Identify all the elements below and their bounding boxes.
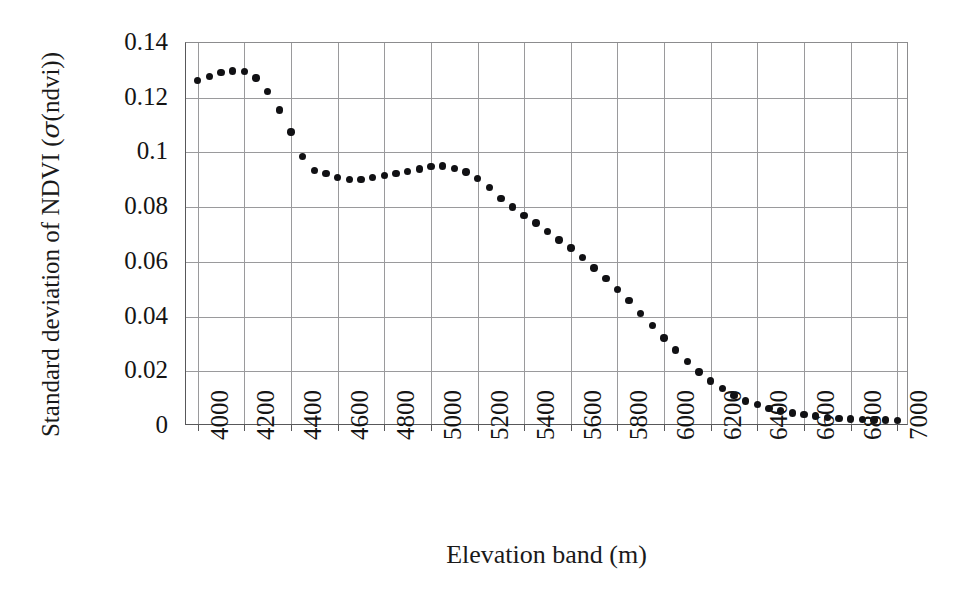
- gridline-horizontal: [186, 371, 907, 372]
- data-point: [894, 417, 901, 424]
- data-point: [532, 219, 539, 226]
- gridline-vertical: [757, 43, 758, 424]
- gridline-vertical: [384, 43, 385, 424]
- data-point: [486, 184, 493, 191]
- x-axis-tick-label: 5200: [486, 390, 514, 440]
- data-point: [252, 74, 259, 81]
- y-axis-tick-label: 0.1: [137, 137, 168, 165]
- x-axis-tick-mark: [291, 424, 292, 431]
- data-point: [800, 411, 807, 418]
- x-axis-tick-mark: [478, 424, 479, 431]
- data-point: [206, 73, 213, 80]
- data-point: [311, 167, 318, 174]
- gridline-horizontal: [186, 262, 907, 263]
- x-axis-tick-label: 5000: [439, 390, 467, 440]
- data-point: [287, 128, 294, 135]
- data-point: [334, 174, 341, 181]
- x-axis-tick-label: 4000: [206, 390, 234, 440]
- x-axis-tick-mark: [711, 424, 712, 431]
- data-point: [520, 212, 527, 219]
- data-point: [276, 106, 283, 113]
- data-point: [416, 165, 423, 172]
- data-point: [649, 322, 656, 329]
- data-point: [217, 69, 224, 76]
- data-point: [684, 358, 691, 365]
- x-axis-tick-label: 5800: [625, 390, 653, 440]
- data-point: [625, 297, 632, 304]
- x-axis-tick-label: 5600: [579, 390, 607, 440]
- data-point: [672, 346, 679, 353]
- data-point: [602, 275, 609, 282]
- gridline-vertical: [338, 43, 339, 424]
- gridline-horizontal: [186, 152, 907, 153]
- data-point: [346, 176, 353, 183]
- data-point: [707, 377, 714, 384]
- gridline-vertical: [711, 43, 712, 424]
- x-axis-tick-mark: [617, 424, 618, 431]
- data-point: [544, 228, 551, 235]
- data-point: [509, 203, 516, 210]
- data-point: [369, 174, 376, 181]
- x-axis-tick-mark: [571, 424, 572, 431]
- data-point: [241, 68, 248, 75]
- y-axis-tick-label: 0.14: [124, 28, 168, 56]
- gridline-vertical: [198, 43, 199, 424]
- data-point: [404, 168, 411, 175]
- y-axis-tick-label: 0.08: [124, 192, 168, 220]
- gridline-vertical: [478, 43, 479, 424]
- y-axis-tick-label: 0: [156, 411, 169, 439]
- x-axis-tick-label: 6800: [859, 390, 887, 440]
- data-point: [322, 170, 329, 177]
- x-axis-tick-label: 7000: [905, 390, 933, 440]
- data-point: [439, 162, 446, 169]
- gridline-vertical: [851, 43, 852, 424]
- data-point: [497, 195, 504, 202]
- data-point: [567, 244, 574, 251]
- data-point: [579, 254, 586, 261]
- gridline-vertical: [804, 43, 805, 424]
- plot-area: [185, 42, 908, 425]
- data-point: [451, 165, 458, 172]
- data-point: [614, 286, 621, 293]
- y-axis-tick-label: 0.06: [124, 247, 168, 275]
- x-axis-tick-label: 5400: [532, 390, 560, 440]
- gridline-vertical: [571, 43, 572, 424]
- x-axis-tick-mark: [244, 424, 245, 431]
- data-point: [847, 415, 854, 422]
- data-point: [264, 88, 271, 95]
- data-point: [194, 77, 201, 84]
- chart-figure: Standard deviation of NDVI (σ(ndvi)) 0.1…: [0, 0, 954, 608]
- x-axis-tick-label: 6600: [812, 390, 840, 440]
- data-point: [427, 163, 434, 170]
- gridline-horizontal: [186, 98, 907, 99]
- x-axis-tick-mark: [338, 424, 339, 431]
- x-axis-tick-label: 6200: [719, 390, 747, 440]
- data-point: [754, 401, 761, 408]
- y-axis-title-suffix: (ndvi)): [37, 52, 64, 121]
- x-axis-tick-mark: [804, 424, 805, 431]
- gridline-vertical: [244, 43, 245, 424]
- x-axis-tick-mark: [757, 424, 758, 431]
- data-point: [392, 170, 399, 177]
- gridline-vertical: [431, 43, 432, 424]
- gridline-vertical: [524, 43, 525, 424]
- y-axis-tick-label: 0.02: [124, 356, 168, 384]
- data-point: [474, 175, 481, 182]
- x-axis-tick-label: 4400: [299, 390, 327, 440]
- gridline-horizontal: [186, 207, 907, 208]
- data-point: [695, 368, 702, 375]
- sigma-symbol: σ: [36, 121, 65, 138]
- x-axis-tick-mark: [384, 424, 385, 431]
- gridline-vertical: [291, 43, 292, 424]
- x-axis-tick-labels: 4000420044004600480050005200540056005800…: [185, 432, 908, 512]
- data-point: [229, 67, 236, 74]
- y-axis-title-prefix: Standard deviation of NDVI (: [37, 138, 64, 437]
- x-axis-tick-mark: [431, 424, 432, 431]
- data-point: [660, 334, 667, 341]
- x-axis-tick-label: 4200: [252, 390, 280, 440]
- x-axis-tick-label: 6400: [765, 390, 793, 440]
- x-axis-tick-label: 6000: [672, 390, 700, 440]
- data-point: [299, 153, 306, 160]
- y-axis-tick-labels: 0.140.120.10.080.060.040.020: [96, 42, 176, 425]
- data-point: [555, 236, 562, 243]
